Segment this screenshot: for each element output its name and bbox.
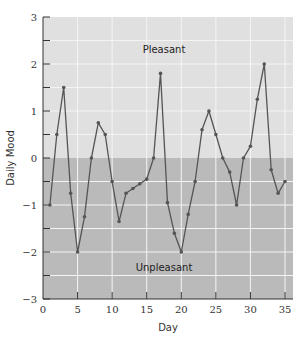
data-point — [62, 86, 66, 90]
mood-line-chart: −3−2−1012305101520253035 Day Daily Mood … — [0, 0, 306, 342]
data-point — [221, 156, 225, 160]
data-point — [242, 156, 246, 160]
data-point — [186, 213, 190, 217]
x-tick-label: 35 — [279, 304, 292, 315]
x-tick-label: 10 — [106, 304, 119, 315]
data-point — [283, 180, 287, 184]
mood-regions — [43, 17, 293, 299]
x-tick-label: 25 — [209, 304, 222, 315]
data-point — [207, 109, 211, 113]
y-tick-label: −3 — [22, 294, 37, 305]
data-point — [179, 250, 183, 254]
y-tick-label: −2 — [22, 247, 37, 258]
data-point — [110, 180, 114, 184]
data-point — [228, 170, 232, 174]
data-point — [124, 191, 128, 195]
data-point — [193, 180, 197, 184]
data-point — [235, 203, 239, 207]
data-point — [159, 72, 163, 76]
x-axis-title: Day — [158, 322, 178, 333]
data-point — [152, 156, 156, 160]
data-point — [166, 201, 170, 205]
data-point — [262, 62, 266, 66]
data-point — [55, 133, 59, 137]
data-point — [76, 250, 80, 254]
x-tick-label: 15 — [140, 304, 153, 315]
data-point — [117, 220, 121, 224]
data-point — [256, 97, 260, 101]
pleasant-label: Pleasant — [143, 44, 186, 55]
y-tick-label: 3 — [31, 12, 37, 23]
data-point — [97, 121, 101, 125]
y-axis-title: Daily Mood — [5, 130, 16, 186]
data-point — [145, 177, 149, 181]
data-point — [83, 215, 87, 219]
data-point — [103, 133, 107, 137]
x-tick-label: 0 — [40, 304, 46, 315]
y-tick-label: −1 — [22, 200, 37, 211]
x-tick-label: 5 — [74, 304, 80, 315]
x-tick-label: 20 — [175, 304, 188, 315]
data-point — [173, 231, 177, 235]
y-tick-label: 1 — [31, 106, 37, 117]
data-point — [214, 133, 218, 137]
y-tick-label: 0 — [31, 153, 37, 164]
data-point — [138, 182, 142, 186]
y-tick-label: 2 — [31, 59, 37, 70]
data-point — [90, 156, 94, 160]
data-point — [269, 168, 273, 172]
x-tick-label: 30 — [244, 304, 257, 315]
unpleasant-label: Unpleasant — [136, 262, 193, 273]
data-point — [69, 191, 73, 195]
data-point — [200, 128, 204, 132]
data-point — [48, 203, 52, 207]
data-point — [276, 191, 280, 195]
data-point — [131, 187, 135, 191]
data-point — [249, 144, 253, 148]
